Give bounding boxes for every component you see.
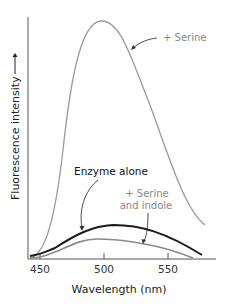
annotation-serine: + Serine <box>163 32 206 43</box>
x-tick-label-450: 450 <box>30 263 50 275</box>
annotation-enzyme-alone: Enzyme alone <box>74 165 148 177</box>
annotation-serine-indole-line1: + Serine <box>125 188 168 199</box>
series-serine <box>30 21 205 258</box>
x-tick-label-550: 550 <box>158 263 178 275</box>
annotation-serine-indole-line2: and indole <box>120 200 173 211</box>
annotation-serine-indole-pointer <box>144 213 148 241</box>
y-axis-arrowhead-icon <box>13 53 18 57</box>
annotation-enzyme-pointer <box>81 180 98 228</box>
y-axis-label-group: Fluorescence intensity <box>9 53 22 200</box>
annotation-serine-pointer <box>133 38 157 48</box>
annotation-enzyme-arrowhead-icon <box>80 226 85 231</box>
fluorescence-chart: 450 500 550 Wavelength (nm) Fluorescence… <box>0 0 227 304</box>
y-axis-label: Fluorescence intensity <box>9 76 22 200</box>
x-tick-label-500: 500 <box>94 263 114 275</box>
x-axis-label: Wavelength (nm) <box>71 283 166 296</box>
